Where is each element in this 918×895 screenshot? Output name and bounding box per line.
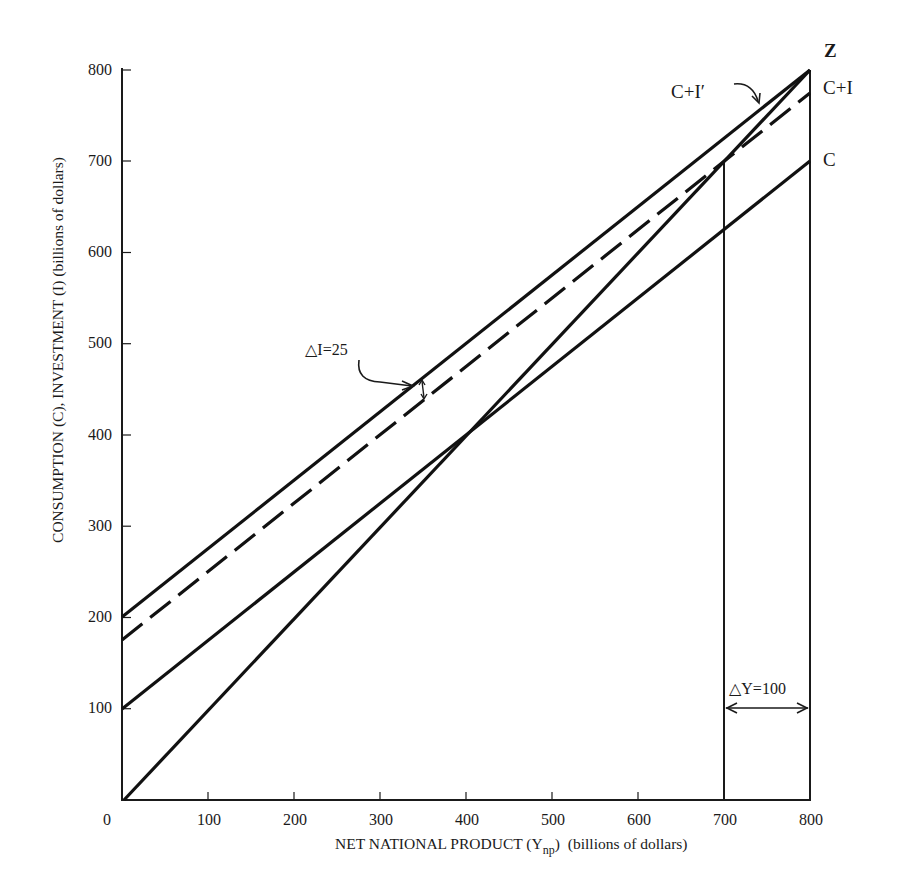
line-c-plus-i-dashed (122, 93, 810, 640)
x-tick-100: 100 (197, 811, 221, 828)
series-lines (122, 70, 810, 800)
y-tick-100: 100 (88, 699, 112, 716)
x-tick-800: 800 (799, 811, 823, 828)
y-tick-labels: 800 700 600 500 400 300 200 100 (88, 61, 112, 716)
y-tick-700: 700 (88, 152, 112, 169)
x-axis-title: NET NATIONAL PRODUCT (Ynp)(billions of d… (335, 835, 688, 857)
delta-i-gap-marker (419, 380, 427, 399)
multiplier-chart: 800 700 600 500 400 300 200 100 0 100 20… (0, 0, 918, 895)
delta-y-arrow (726, 703, 808, 713)
y-tick-500: 500 (88, 334, 112, 351)
line-c-plus-i-prime (122, 70, 810, 617)
y-tick-600: 600 (88, 243, 112, 260)
x-tick-0: 0 (103, 811, 111, 828)
x-tick-300: 300 (369, 811, 393, 828)
label-c: C (823, 149, 836, 170)
y-tick-800: 800 (88, 61, 112, 78)
x-tick-500: 500 (541, 811, 565, 828)
x-tick-700: 700 (713, 811, 737, 828)
x-ticks (208, 792, 638, 800)
label-c-plus-i: C+I (823, 77, 853, 98)
x-tick-400: 400 (455, 811, 479, 828)
delta-y-label: △Y=100 (729, 680, 786, 697)
x-tick-200: 200 (283, 811, 307, 828)
label-c-plus-i-prime: C+I′ (671, 81, 705, 102)
y-tick-300: 300 (88, 517, 112, 534)
label-z: Z (824, 40, 837, 61)
y-tick-200: 200 (88, 608, 112, 625)
y-axis-title: CONSUMPTION (C), INVESTMENT (I) (billion… (49, 157, 67, 543)
line-c (122, 161, 810, 709)
delta-i-label: △I=25 (305, 341, 348, 358)
x-tick-labels: 0 100 200 300 400 500 600 700 800 (103, 811, 823, 828)
delta-i-arrow (359, 360, 413, 390)
x-tick-600: 600 (627, 811, 651, 828)
y-tick-400: 400 (88, 426, 112, 443)
c-plus-i-prime-arrow (734, 84, 760, 103)
